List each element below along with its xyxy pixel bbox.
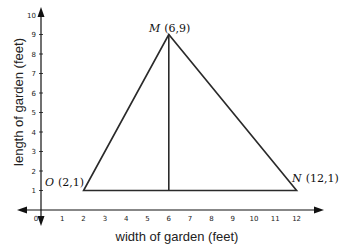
- x-tick-8: 8: [209, 215, 213, 223]
- x-tick-7: 7: [188, 215, 192, 223]
- y-tick-7: 7: [32, 70, 36, 78]
- y-axis-up-arrow-icon: [38, 7, 45, 17]
- y-tick-3: 3: [32, 148, 36, 156]
- y-tick-10: 10: [27, 12, 36, 20]
- triangle-omn: [84, 35, 297, 191]
- point-label-m: M(6,9): [148, 22, 190, 35]
- x-tick-10: 10: [250, 215, 259, 223]
- y-axis-down-arrow-icon: [38, 216, 45, 226]
- x-tick-4: 4: [124, 215, 129, 223]
- x-tick-2: 2: [81, 215, 85, 223]
- x-tick-12: 12: [292, 215, 301, 223]
- x-tick-11: 11: [271, 215, 280, 223]
- y-tick-1: 1: [32, 187, 36, 195]
- y-tick-6: 6: [32, 90, 37, 98]
- diagram-canvas: 0123456789101112 12345678910 M(6,9) O(2,…: [0, 0, 350, 252]
- coordinate-diagram: 0123456789101112 12345678910 M(6,9) O(2,…: [0, 0, 350, 252]
- x-tick-labels: 0123456789101112: [34, 215, 301, 223]
- y-tick-8: 8: [32, 51, 36, 59]
- x-tick-0: 0: [34, 215, 38, 223]
- point-label-o: O(2,1): [45, 176, 84, 189]
- x-tick-9: 9: [230, 215, 234, 223]
- x-tick-5: 5: [145, 215, 149, 223]
- x-axis-label: width of garden (feet): [115, 229, 239, 244]
- y-tick-4: 4: [32, 129, 37, 137]
- y-axis-label: length of garden (feet): [11, 38, 26, 166]
- x-tick-6: 6: [167, 215, 172, 223]
- point-label-n: N(12,1): [291, 172, 339, 185]
- y-tick-5: 5: [32, 109, 36, 117]
- x-axis-right-arrow-icon: [314, 207, 324, 214]
- y-tick-2: 2: [32, 168, 36, 176]
- y-tick-9: 9: [32, 31, 36, 39]
- x-tick-1: 1: [60, 215, 64, 223]
- x-axis-left-arrow-icon: [17, 207, 27, 214]
- x-tick-3: 3: [103, 215, 107, 223]
